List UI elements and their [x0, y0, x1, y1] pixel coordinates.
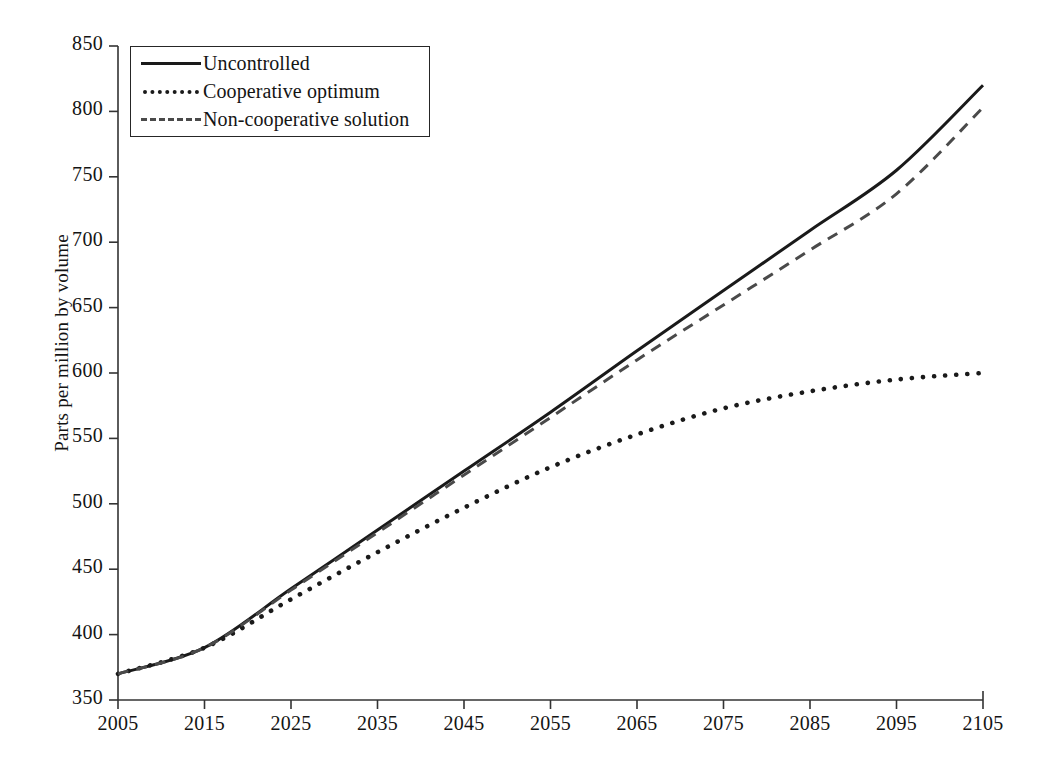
x-tick-label: 2005	[78, 712, 158, 735]
legend-item-cooperative-optimum: Cooperative optimum	[139, 77, 380, 105]
legend-label-uncontrolled: Uncontrolled	[203, 52, 310, 75]
chart-figure: Parts per million by volume 350400450500…	[0, 0, 1047, 775]
legend-label-non-cooperative-solution: Non-cooperative solution	[203, 108, 409, 131]
y-tick-label: 350	[43, 686, 103, 709]
y-tick-label: 400	[43, 621, 103, 644]
y-tick-label: 650	[43, 294, 103, 317]
y-tick-label: 450	[43, 555, 103, 578]
legend-dotted-line-icon	[139, 84, 201, 98]
y-tick-label: 550	[43, 424, 103, 447]
x-tick-label: 2085	[770, 712, 850, 735]
x-tick-label: 2015	[165, 712, 245, 735]
y-tick-label: 600	[43, 359, 103, 382]
x-tick-label: 2075	[684, 712, 764, 735]
x-tick-label: 2095	[857, 712, 937, 735]
y-tick-label: 800	[43, 97, 103, 120]
chart-legend: Uncontrolled Cooperative optimum Non-coo…	[130, 46, 430, 137]
x-tick-label: 2055	[511, 712, 591, 735]
x-tick-label: 2035	[338, 712, 418, 735]
x-tick-label: 2065	[597, 712, 677, 735]
y-tick-label: 700	[43, 228, 103, 251]
y-tick-label: 500	[43, 490, 103, 513]
legend-item-non-cooperative-solution: Non-cooperative solution	[139, 105, 409, 133]
legend-item-uncontrolled: Uncontrolled	[139, 49, 310, 77]
y-tick-label: 850	[43, 32, 103, 55]
x-tick-label: 2045	[424, 712, 504, 735]
legend-dashed-line-icon	[139, 112, 201, 126]
series-line-dotted	[118, 373, 983, 674]
series-line-dashed	[118, 107, 983, 673]
y-tick-label: 750	[43, 163, 103, 186]
legend-label-cooperative-optimum: Cooperative optimum	[203, 80, 380, 103]
x-tick-label: 2025	[251, 712, 331, 735]
legend-solid-line-icon	[139, 56, 201, 70]
series-line-solid	[118, 85, 983, 674]
x-tick-label: 2105	[943, 712, 1023, 735]
